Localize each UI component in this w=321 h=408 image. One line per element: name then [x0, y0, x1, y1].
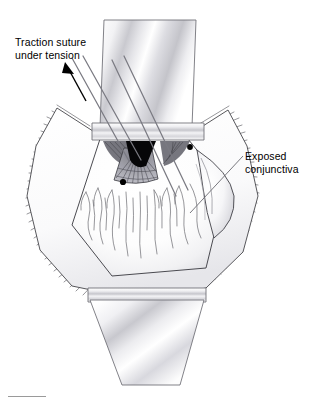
traction-suture-label: Traction suture under tension [15, 36, 86, 61]
speculum-lower-blade [90, 300, 204, 385]
surgical-illustration-figure: Traction suture under tension Exposed co… [0, 0, 321, 408]
footer-rule [8, 396, 46, 397]
suture-knot-marker-inferior [120, 179, 126, 185]
traction-arrow [62, 62, 86, 101]
exposed-conjunctiva-label: Exposed conjunctiva [245, 150, 299, 175]
suture-knot-marker-lateral [187, 144, 193, 150]
speculum-upper-blade [100, 20, 196, 127]
illustration-canvas [0, 0, 321, 408]
